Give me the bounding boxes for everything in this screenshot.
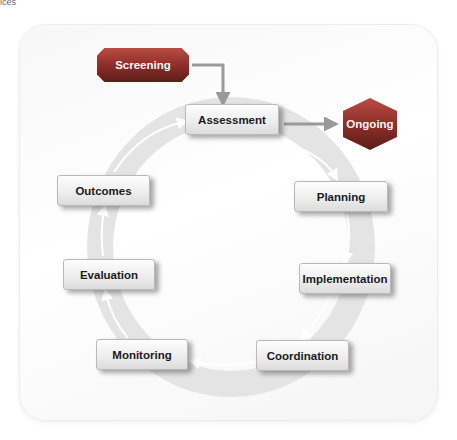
cycle-ring [0, 0, 457, 440]
outcomes-label: Outcomes [75, 185, 131, 197]
planning-node: Planning [294, 181, 388, 212]
evaluation-label: Evaluation [80, 269, 138, 281]
coordination-node: Coordination [256, 340, 349, 371]
implementation-node: Implementation [299, 263, 391, 294]
screening-label: Screening [115, 59, 171, 71]
planning-label: Planning [317, 191, 366, 203]
screening-node: Screening [97, 48, 189, 82]
evaluation-node: Evaluation [63, 259, 155, 290]
arrow-coordination-monitoring [194, 362, 255, 365]
outcomes-node: Outcomes [57, 175, 150, 206]
arrow-screening-assessment [192, 65, 223, 98]
assessment-label: Assessment [198, 114, 266, 126]
coordination-label: Coordination [267, 350, 339, 362]
monitoring-node: Monitoring [96, 339, 188, 370]
monitoring-label: Monitoring [112, 349, 171, 361]
implementation-label: Implementation [303, 273, 388, 285]
ongoing-label: Ongoing [346, 118, 393, 130]
assessment-node: Assessment [185, 104, 279, 135]
